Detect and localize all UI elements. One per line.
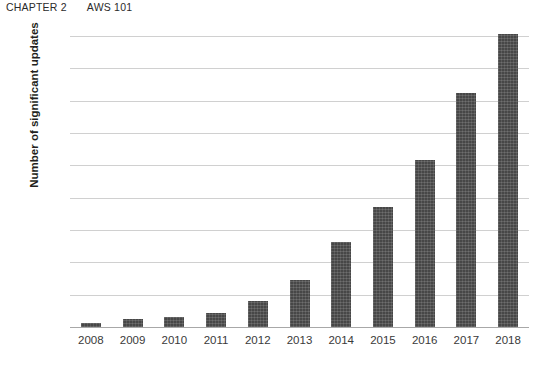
x-axis: 2008200920102011201220132014201520162017… (70, 334, 529, 354)
gridline (70, 36, 529, 37)
y-axis-title: Number of significant updates (28, 0, 40, 213)
plot-area: 020040060080010001200140016001800 (70, 36, 529, 327)
x-tick-label: 2014 (318, 334, 364, 346)
x-tick-label: 2008 (68, 334, 114, 346)
bar (164, 317, 184, 328)
gridline (70, 327, 529, 328)
bar (331, 242, 351, 327)
x-tick-label: 2012 (235, 334, 281, 346)
x-tick-label: 2015 (360, 334, 406, 346)
bar (456, 93, 476, 327)
x-tick-label: 2017 (443, 334, 489, 346)
x-tick-label: 2010 (151, 334, 197, 346)
bar (81, 323, 101, 327)
bar (248, 301, 268, 327)
running-header: CHAPTER 2 AWS 101 (6, 1, 132, 13)
gridline (70, 68, 529, 69)
x-tick-label: 2016 (402, 334, 448, 346)
bar (373, 207, 393, 327)
bar (290, 280, 310, 327)
bar (123, 319, 143, 327)
bar (206, 313, 226, 327)
chapter-title: AWS 101 (87, 1, 132, 13)
x-tick-label: 2009 (110, 334, 156, 346)
bar (498, 34, 518, 327)
x-tick-label: 2011 (193, 334, 239, 346)
x-tick-label: 2013 (277, 334, 323, 346)
x-tick-label: 2018 (485, 334, 531, 346)
bar-chart-figure: Number of significant updates 0200400600… (0, 18, 535, 366)
bar (415, 160, 435, 327)
